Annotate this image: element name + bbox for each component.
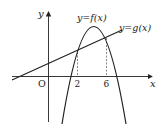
curve-label-f: y=f(x) — [76, 12, 107, 23]
x-axis-label: x — [150, 78, 156, 89]
line-g — [12, 30, 122, 80]
tick-label-2: 2 — [75, 79, 81, 89]
y-axis-label: y — [37, 8, 44, 19]
origin-label: O — [38, 78, 46, 89]
curve-label-g: y=g(x) — [118, 22, 151, 33]
parabola-f — [62, 27, 126, 125]
tick-label-6: 6 — [104, 79, 110, 89]
function-graph-figure: y x O 2 6 y=f(x) y=g(x) — [0, 0, 163, 131]
